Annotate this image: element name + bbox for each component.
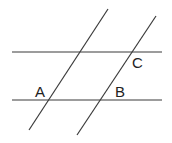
label-a: A [35,83,45,100]
label-c: C [132,54,143,71]
geometry-diagram: A B C [0,0,172,143]
left-transversal-line [29,9,108,130]
label-b: B [115,83,125,100]
right-transversal-line [77,16,156,135]
